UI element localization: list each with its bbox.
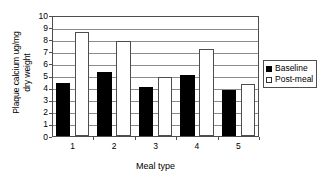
x-axis-tick-label: 3 xyxy=(145,142,167,151)
bar-baseline-5 xyxy=(222,90,237,136)
x-axis-tick-mark xyxy=(93,137,94,140)
bar-group xyxy=(53,17,94,136)
x-axis-tick-mark xyxy=(176,137,177,140)
x-axis-title: Meal type xyxy=(52,161,259,171)
y-axis-tick-label: 5 xyxy=(28,72,48,81)
legend-item: Post-meal xyxy=(266,74,313,85)
y-axis-tick-label: 3 xyxy=(28,96,48,105)
legend-swatch-icon xyxy=(266,66,272,72)
y-axis-tick-label: 2 xyxy=(28,108,48,117)
y-axis-tick-label: 7 xyxy=(28,48,48,57)
plot-area xyxy=(52,16,259,137)
bar-post-meal-2 xyxy=(116,41,131,136)
x-axis-tick-label: 5 xyxy=(227,142,249,151)
y-axis-tick-label: 6 xyxy=(28,60,48,69)
x-axis-tick-mark xyxy=(135,137,136,140)
chart-legend: BaselinePost-meal xyxy=(263,60,317,88)
y-axis-tick-label: 4 xyxy=(28,84,48,93)
x-axis-tick-mark xyxy=(218,137,219,140)
bar-post-meal-3 xyxy=(158,77,173,136)
bar-baseline-1 xyxy=(56,83,71,136)
bar-baseline-2 xyxy=(97,72,112,136)
bar-group xyxy=(94,17,135,136)
x-axis-tick-mark xyxy=(259,137,260,140)
bar-baseline-3 xyxy=(139,87,154,136)
x-axis-tick-label: 2 xyxy=(103,142,125,151)
y-axis-tick-label: 10 xyxy=(28,12,48,21)
bar-series-container xyxy=(53,17,258,136)
bar-baseline-4 xyxy=(180,75,195,136)
bar-chart-figure: Plaque calcium ug/mg dry weight 10987654… xyxy=(0,0,327,181)
bar-post-meal-5 xyxy=(241,84,256,136)
bar-post-meal-4 xyxy=(199,49,214,136)
y-axis-tick-label: 0 xyxy=(28,133,48,142)
bar-group xyxy=(177,17,218,136)
bar-post-meal-1 xyxy=(75,32,90,136)
legend-label: Baseline xyxy=(275,64,308,73)
legend-label: Post-meal xyxy=(275,75,313,84)
legend-item: Baseline xyxy=(266,63,313,74)
y-axis-tick-label: 8 xyxy=(28,36,48,45)
y-axis-tick-label: 9 xyxy=(28,24,48,33)
y-axis-tick-mark xyxy=(49,137,52,138)
x-axis-tick-label: 1 xyxy=(62,142,84,151)
y-axis-tick-label: 1 xyxy=(28,120,48,129)
x-axis-tick-label: 4 xyxy=(186,142,208,151)
bar-group xyxy=(219,17,260,136)
legend-swatch-icon xyxy=(266,77,272,83)
bar-group xyxy=(136,17,177,136)
